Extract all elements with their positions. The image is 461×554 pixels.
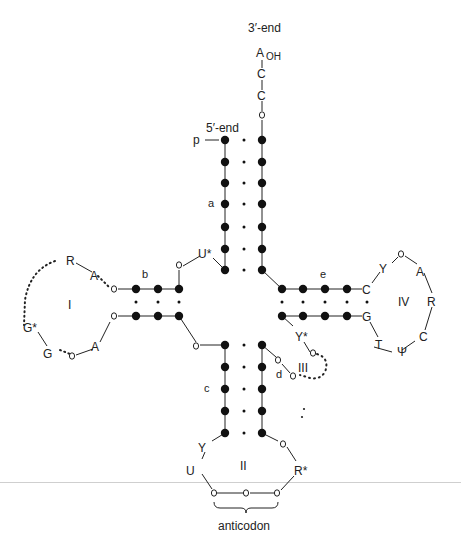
loop-iv-psi: Ψ — [397, 345, 407, 359]
anticodon-label: anticodon — [218, 519, 270, 533]
loop-ii-u: U — [186, 464, 195, 478]
loop-i-r: R — [66, 254, 75, 268]
u-star-label: U* — [198, 247, 212, 261]
phosphate-label: p — [193, 133, 200, 147]
c-nucleotide-2: C — [257, 89, 266, 103]
loop-i-a2: A — [91, 340, 99, 354]
trna-cloverleaf-diagram: 3′-end A OH C C 5′-end p a b c d e I II … — [0, 0, 461, 554]
five-prime-end-label: 5′-end — [206, 121, 239, 135]
loop-iv-c2: C — [419, 330, 428, 344]
unpaired-nucleotides — [69, 112, 403, 496]
loop-iv-c: C — [362, 283, 371, 297]
loop-iv-t: T — [375, 338, 383, 352]
loop-iii-label: III — [298, 361, 308, 375]
terminal-a: A — [256, 46, 264, 60]
three-prime-end-label: 3′-end — [248, 21, 281, 35]
terminal-oh: OH — [266, 51, 281, 62]
loop-i-g-star: G* — [23, 321, 37, 335]
loop-ii-r-star: R* — [294, 464, 308, 478]
loop-iii-y-star: Y* — [295, 330, 308, 344]
loop-i-label: I — [68, 298, 71, 312]
loop-i-g: G — [43, 347, 52, 361]
loop-ii-label: II — [240, 459, 247, 473]
loop-iv-a: A — [416, 265, 424, 279]
loop-i-a1: A — [90, 269, 98, 283]
loop-ii-y: Y — [198, 441, 206, 455]
paired-nucleotides — [132, 136, 351, 437]
loop-iv-r: R — [427, 295, 436, 309]
stem-a-label: a — [208, 197, 215, 209]
loop-iv-y: Y — [379, 262, 387, 276]
stem-d-label: d — [276, 368, 282, 380]
base-pair-dots — [135, 139, 369, 435]
stem-e-label: e — [320, 268, 326, 280]
stem-c-label: c — [204, 382, 210, 394]
loop-iv-g: G — [362, 310, 371, 324]
c-nucleotide-1: C — [257, 67, 266, 81]
stem-b-label: b — [142, 268, 148, 280]
loop-iv-label: IV — [398, 295, 409, 309]
